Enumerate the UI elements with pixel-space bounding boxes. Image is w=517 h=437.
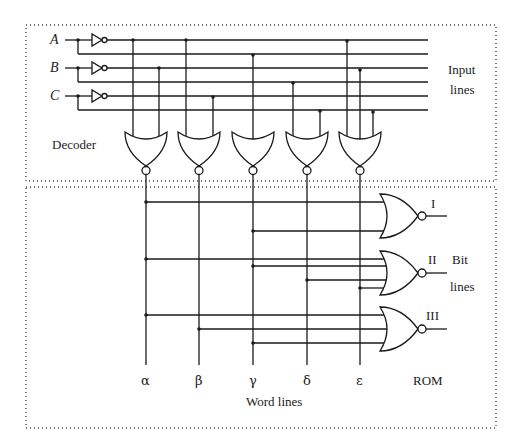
word-line-label-delta: δ	[303, 373, 311, 388]
input-label-c: C	[50, 88, 60, 103]
rom-nor-gate-i-icon	[380, 194, 447, 238]
decoder-label: Decoder	[52, 137, 97, 152]
decoder-nor-gate-2-icon	[178, 132, 220, 175]
input-label-b: B	[50, 60, 59, 75]
input-lines-label-1: Input	[448, 62, 476, 77]
word-line-label-gamma: γ	[249, 373, 257, 388]
word-lines	[146, 175, 360, 365]
decoder-nor-gate-5-icon	[339, 132, 381, 175]
bit-label-iii: III	[426, 308, 439, 323]
bit-lines-label-1: Bit	[452, 252, 468, 267]
word-line-label-epsilon: ε	[356, 373, 363, 388]
rom-nor-gate-ii-icon	[380, 251, 447, 295]
word-line-label-alpha: α	[141, 373, 150, 388]
input-wiring	[65, 38, 428, 110]
decoder-nor-gate-4-icon	[286, 132, 328, 175]
decoder-nor-gate-3-icon	[232, 132, 274, 175]
decoder-rom-diagram: A B C	[0, 0, 517, 437]
inverter-b-icon	[92, 62, 428, 74]
inverter-a-icon	[92, 34, 428, 46]
inverter-c-icon	[92, 90, 428, 102]
word-line-label-beta: β	[195, 373, 203, 388]
bit-label-i: I	[431, 196, 435, 211]
input-lines-label-2: lines	[450, 82, 475, 97]
bit-label-ii: II	[428, 252, 437, 267]
rom-connections	[144, 200, 387, 345]
decoder-nor-gate-1-icon	[125, 132, 167, 175]
input-label-a: A	[49, 32, 59, 47]
word-lines-label: Word lines	[246, 394, 302, 409]
rom-label: ROM	[413, 373, 443, 388]
bit-lines-label-2: lines	[450, 279, 475, 294]
